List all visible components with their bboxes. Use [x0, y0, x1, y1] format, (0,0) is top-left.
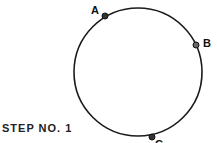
- point-c: C: [149, 134, 163, 143]
- circle: [74, 8, 202, 136]
- step-label: STEP NO. 1: [2, 122, 72, 134]
- point-a: A: [91, 4, 108, 19]
- point-b: B: [193, 37, 211, 49]
- point-b-label: B: [203, 37, 211, 49]
- point-a-label: A: [91, 4, 99, 16]
- point-c-label: C: [155, 138, 163, 143]
